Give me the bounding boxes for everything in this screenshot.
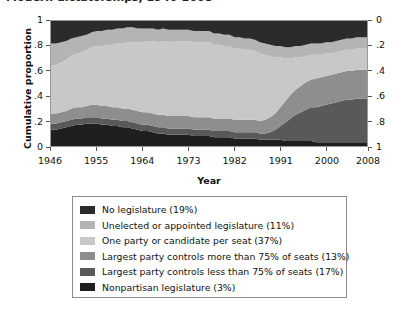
- y-axis-tick-mark-left: [46, 121, 50, 122]
- y-axis-tick-mark-right: [368, 70, 372, 71]
- x-axis-tick-mark: [96, 147, 97, 151]
- legend-label: No legislature (19%): [102, 205, 197, 214]
- legend-item: No legislature (19%): [80, 202, 346, 218]
- x-axis-tick-label: 1982: [223, 156, 247, 166]
- x-axis-tick-label: 2000: [315, 156, 339, 166]
- y-axis-tick-label-left: .8: [13, 41, 43, 51]
- x-axis-tick-mark: [280, 147, 281, 151]
- y-axis-tick-label-left: .6: [13, 66, 43, 76]
- legend-swatch: [80, 206, 95, 214]
- x-axis-tick-label: 1964: [130, 156, 154, 166]
- x-axis-label: Year: [50, 175, 368, 186]
- x-axis-tick-mark: [50, 147, 51, 151]
- x-axis-tick-label: 2008: [356, 156, 380, 166]
- x-axis-tick-label: 1973: [176, 156, 200, 166]
- stacked-area-plot: [51, 21, 367, 146]
- y-axis-tick-mark-right: [368, 20, 372, 21]
- y-axis-tick-mark-left: [46, 45, 50, 46]
- plot-area: [50, 20, 368, 147]
- legend-swatch: [80, 252, 95, 260]
- legend-label: Largest party controls more than 75% of …: [102, 252, 349, 261]
- y-axis-tick-label-right: 0: [376, 15, 406, 25]
- x-axis-tick-label: 1946: [38, 156, 62, 166]
- y-axis-tick-mark-right: [368, 96, 372, 97]
- legend-swatch: [80, 237, 95, 245]
- y-axis-tick-mark-right: [368, 147, 372, 148]
- x-axis-tick-mark: [326, 147, 327, 151]
- chart-legend: No legislature (19%)Unelected or appoint…: [72, 196, 347, 298]
- y-axis-tick-label-left: 1: [13, 15, 43, 25]
- legend-item: Unelected or appointed legislature (11%): [80, 218, 346, 234]
- legend-label: Unelected or appointed legislature (11%): [102, 221, 294, 230]
- x-axis-tick-label: 1955: [84, 156, 108, 166]
- legend-swatch: [80, 268, 95, 276]
- x-axis-tick-mark: [234, 147, 235, 151]
- legend-label: Largest party controls less than 75% of …: [102, 267, 343, 276]
- y-axis-tick-mark-right: [368, 121, 372, 122]
- x-axis-tick-mark: [142, 147, 143, 151]
- y-axis-tick-mark-left: [46, 20, 50, 21]
- legend-item: One party or candidate per seat (37%): [80, 233, 346, 249]
- chart-title-partial: Modern dictatorships, 1946-2008: [6, 0, 256, 3]
- legend-swatch: [80, 221, 95, 229]
- y-axis-tick-label-right: .6: [376, 91, 406, 101]
- legend-label: Nonpartisan legislature (3%): [102, 283, 235, 292]
- chart-page: Modern dictatorships, 1946-2008 Cumulati…: [0, 0, 419, 309]
- legend-label: One party or candidate per seat (37%): [102, 236, 282, 245]
- legend-item: Nonpartisan legislature (3%): [80, 280, 346, 296]
- y-axis-tick-label-right: 1: [376, 142, 406, 152]
- y-axis-tick-label-left: 0: [13, 142, 43, 152]
- y-axis-tick-label-right: .8: [376, 117, 406, 127]
- y-axis-tick-label-left: .2: [13, 117, 43, 127]
- y-axis-tick-mark-left: [46, 70, 50, 71]
- y-axis-tick-mark-right: [368, 45, 372, 46]
- x-axis-tick-mark: [368, 147, 369, 151]
- y-axis-tick-label-right: .2: [376, 41, 406, 51]
- legend-item: Largest party controls less than 75% of …: [80, 264, 346, 280]
- legend-swatch: [80, 283, 95, 291]
- y-axis-tick-label-left: .4: [13, 91, 43, 101]
- legend-item: Largest party controls more than 75% of …: [80, 249, 346, 265]
- x-axis-tick-mark: [188, 147, 189, 151]
- x-axis-tick-label: 1991: [269, 156, 293, 166]
- y-axis-tick-label-right: .4: [376, 66, 406, 76]
- y-axis-tick-mark-left: [46, 96, 50, 97]
